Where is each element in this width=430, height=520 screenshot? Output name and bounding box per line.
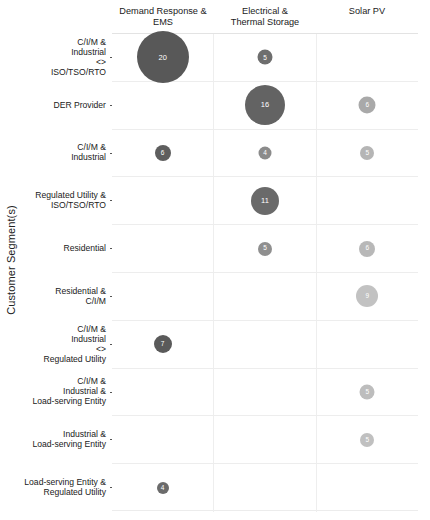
y-axis-tick — [110, 296, 112, 297]
grid-cell: 20 — [112, 34, 214, 81]
bubble-marker[interactable]: 9 — [356, 285, 378, 307]
grid-cell — [317, 34, 418, 81]
row-label: Regulated Utility & ISO/TSO/RTO — [20, 176, 110, 224]
bubble-marker[interactable]: 4 — [258, 146, 271, 159]
grid-cell: 4 — [214, 130, 316, 177]
bubble-value-label: 6 — [161, 150, 165, 157]
grid-cell: 11 — [214, 177, 316, 224]
grid-cell — [317, 177, 418, 224]
grid-cell — [214, 273, 316, 320]
grid-cell: 5 — [317, 369, 418, 416]
grid-cell — [112, 416, 214, 463]
grid-cell — [214, 464, 316, 512]
row-label: Residential — [20, 224, 110, 272]
y-axis-title-label: Customer Segment(s) — [5, 205, 17, 315]
bubble-marker[interactable]: 5 — [360, 384, 375, 399]
bubble-value-label: 6 — [366, 245, 370, 252]
grid-cell — [112, 369, 214, 416]
row-label: Load-serving Entity & Regulated Utility — [20, 463, 110, 511]
bubble-marker[interactable]: 6 — [359, 97, 376, 114]
y-axis-tick — [110, 439, 112, 440]
grid-row: 9 — [112, 273, 418, 321]
grid-cell: 9 — [317, 273, 418, 320]
bubble-value-label: 4 — [263, 150, 267, 157]
grid-cell: 5 — [317, 130, 418, 177]
grid-cell — [112, 225, 214, 272]
y-axis-tick — [110, 105, 112, 106]
y-axis-tick — [110, 200, 112, 201]
grid-cell: 16 — [214, 82, 316, 129]
grid-cell: 7 — [112, 321, 214, 368]
grid-cell — [112, 82, 214, 129]
bubble-value-label: 11 — [261, 197, 269, 205]
bubble-value-label: 9 — [366, 293, 370, 300]
column-header: Demand Response & EMS — [112, 6, 214, 32]
grid-cell — [317, 464, 418, 512]
row-label: C/I/M & Industrial — [20, 129, 110, 177]
bubble-marker[interactable]: 16 — [245, 85, 285, 125]
grid-cell: 5 — [214, 34, 316, 81]
bubble-marker[interactable]: 5 — [360, 433, 374, 447]
y-axis-title: Customer Segment(s) — [0, 0, 22, 520]
row-label: DER Provider — [20, 81, 110, 129]
y-axis-tick — [110, 344, 112, 345]
bubble-value-label: 20 — [158, 54, 166, 62]
bubble-marker[interactable]: 7 — [154, 335, 172, 353]
bubble-marker[interactable]: 5 — [257, 50, 272, 65]
bubble-value-label: 5 — [366, 389, 370, 396]
grid-row: 7 — [112, 321, 418, 369]
bubble-value-label: 5 — [263, 54, 267, 61]
bubble-marker[interactable]: 5 — [258, 242, 272, 256]
grid-row: 166 — [112, 82, 418, 130]
column-header-row: Demand Response & EMSElectrical & Therma… — [112, 6, 418, 32]
grid-cell: 6 — [317, 225, 418, 272]
y-axis-tick — [110, 153, 112, 154]
grid-cell: 4 — [112, 464, 214, 512]
grid-cell — [112, 177, 214, 224]
grid-row: 56 — [112, 225, 418, 273]
y-axis-tick — [110, 248, 112, 249]
bubble-marker[interactable]: 4 — [157, 482, 169, 494]
y-axis-tick — [110, 57, 112, 58]
grid-row: 645 — [112, 130, 418, 178]
bubble-marker[interactable]: 6 — [155, 145, 171, 161]
row-label: C/I/M & Industrial <> Regulated Utility — [20, 320, 110, 368]
bubble-matrix-chart: Customer Segment(s) Demand Response & EM… — [0, 0, 430, 520]
bubble-value-label: 16 — [261, 101, 269, 109]
bubble-value-label: 6 — [366, 102, 370, 109]
bubble-value-label: 5 — [366, 437, 370, 444]
bubble-marker[interactable]: 20 — [137, 31, 189, 83]
row-label: C/I/M & Industrial & Load-serving Entity — [20, 368, 110, 416]
grid-cell — [112, 273, 214, 320]
grid-row: 5 — [112, 416, 418, 464]
bubble-marker[interactable]: 11 — [251, 187, 279, 215]
grid-row: 11 — [112, 177, 418, 225]
grid-cell: 6 — [112, 130, 214, 177]
grid-cell — [317, 321, 418, 368]
bubble-marker[interactable]: 6 — [359, 241, 375, 257]
grid-cell: 5 — [317, 416, 418, 463]
y-axis-tick — [110, 392, 112, 393]
column-header: Solar PV — [316, 6, 418, 32]
y-axis-tick — [110, 487, 112, 488]
grid-cell — [214, 369, 316, 416]
bubble-value-label: 4 — [161, 485, 165, 492]
grid-row: 205 — [112, 34, 418, 82]
bubble-value-label: 7 — [161, 341, 165, 348]
grid-cell — [214, 416, 316, 463]
bubble-marker[interactable]: 5 — [360, 146, 374, 160]
bubble-value-label: 5 — [263, 245, 267, 252]
grid-cell — [214, 321, 316, 368]
grid-cell: 5 — [214, 225, 316, 272]
row-label: C/I/M & Industrial <> ISO/TSO/RTO — [20, 33, 110, 81]
bubble-value-label: 5 — [366, 150, 370, 157]
row-label-column: C/I/M & Industrial <> ISO/TSO/RTODER Pro… — [20, 33, 110, 511]
plot-area: 205166645115697554 — [112, 33, 418, 511]
row-label: Residential & C/I/M — [20, 272, 110, 320]
grid-row: 4 — [112, 464, 418, 512]
column-header: Electrical & Thermal Storage — [214, 6, 316, 32]
grid-cell: 6 — [317, 82, 418, 129]
row-label: Industrial & Load-serving Entity — [20, 415, 110, 463]
grid-row: 5 — [112, 369, 418, 417]
